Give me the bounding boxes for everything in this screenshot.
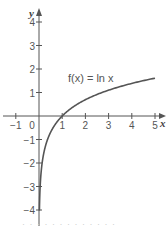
- chart-canvas: −1012345−4−3−2−11234 f(x) = ln x y x: [0, 0, 167, 229]
- y-tick-label: −3: [24, 182, 36, 193]
- y-tick-label: 3: [29, 41, 35, 52]
- y-tick-label: 1: [29, 88, 35, 99]
- caption: · · · · · · · · · · · · ·: [22, 219, 116, 229]
- y-tick-label: −2: [24, 158, 36, 169]
- ln-curve: [39, 78, 155, 210]
- y-tick-label: −4: [24, 205, 36, 216]
- y-tick-label: 2: [29, 64, 35, 75]
- x-tick-label: 3: [106, 120, 112, 131]
- y-tick-label: −1: [24, 135, 36, 146]
- axes: [3, 8, 166, 226]
- x-tick-label: 4: [129, 120, 135, 131]
- x-tick-label: 5: [152, 120, 158, 131]
- y-axis-label: y: [27, 7, 34, 19]
- function-label: f(x) = ln x: [68, 72, 114, 84]
- x-tick-label: 1: [59, 120, 65, 131]
- x-tick-label: 0: [29, 120, 35, 131]
- curve-layer: [39, 78, 155, 210]
- x-tick-label: −1: [10, 120, 22, 131]
- x-tick-label: 2: [83, 120, 89, 131]
- y-axis-arrow-icon: [36, 8, 42, 16]
- x-axis-label: x: [159, 117, 166, 129]
